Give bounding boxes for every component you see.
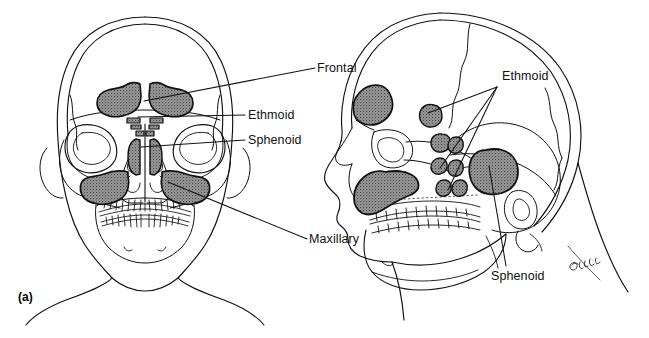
label-ethmoid-frontal-view: Ethmoid xyxy=(248,108,295,122)
frontal-sinus-left-shape xyxy=(97,83,141,117)
maxillary-sinus-right-shape xyxy=(161,171,209,204)
brow-ridge xyxy=(70,110,220,120)
mastoid xyxy=(516,231,538,252)
skull-diagram-svg xyxy=(0,0,649,338)
lateral-skull-view xyxy=(324,13,628,320)
mental-tubercle-right xyxy=(158,247,166,251)
coronal-suture xyxy=(449,24,470,128)
mandible-lateral xyxy=(364,230,506,290)
frontal-skull-view xyxy=(26,17,315,325)
label-ethmoid-lateral-view: Ethmoid xyxy=(502,69,549,83)
orbit-lateral-inner xyxy=(378,138,404,162)
mandible-ramus xyxy=(486,236,498,268)
leader-frontal xyxy=(144,68,315,101)
skull-back xyxy=(440,13,581,232)
ethmoid-cell-7 xyxy=(452,180,467,196)
ear-inner xyxy=(513,199,530,220)
nasal-profile xyxy=(336,128,352,165)
orbit-left-inner xyxy=(73,132,110,164)
sinus-anatomy-figure: Frontal Ethmoid Sphenoid Maxillary Ethmo… xyxy=(0,0,649,338)
label-sphenoid-lateral-view: Sphenoid xyxy=(491,269,545,283)
ethmoid-cell-1 xyxy=(419,104,442,127)
lower-teeth xyxy=(100,209,190,227)
mandible-inner xyxy=(372,270,478,281)
maxillary-sinus-lateral-shape xyxy=(354,171,419,214)
sphenoid-sinus-lateral-shape xyxy=(469,149,518,195)
ethmoid-sinus-lateral-cells xyxy=(419,104,467,196)
frontal-sinus-right-shape xyxy=(149,83,193,117)
artist-signature xyxy=(568,246,600,280)
label-frontal-frontal-view: Frontal xyxy=(317,61,357,75)
label-sphenoid-frontal-view: Sphenoid xyxy=(248,133,302,147)
neck-back xyxy=(578,163,628,292)
orbit-right-inner xyxy=(180,132,217,164)
jaw-soft-contour xyxy=(112,278,178,291)
maxillary-sinus-left-shape xyxy=(80,171,128,204)
leader-ethmoid xyxy=(138,115,245,117)
ethmoid-cell-2 xyxy=(431,134,450,152)
mental-tubercle-left xyxy=(124,247,132,251)
jaw-line xyxy=(392,234,506,265)
parietal-suture xyxy=(545,88,562,158)
head-outline-lateral xyxy=(324,13,440,262)
neck-front xyxy=(392,262,404,320)
frontal-sinus-lateral-shape xyxy=(353,85,392,125)
panel-letter-a: (a) xyxy=(18,290,33,304)
leader-maxillary xyxy=(168,182,307,239)
ear-lateral xyxy=(504,191,537,230)
label-maxillary-frontal-view: Maxillary xyxy=(309,232,359,246)
